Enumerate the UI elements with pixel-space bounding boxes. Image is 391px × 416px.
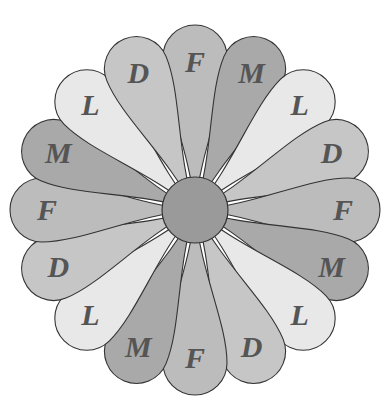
flower-center	[162, 177, 228, 243]
petal-label: D	[46, 250, 69, 283]
petal-label: M	[124, 330, 153, 363]
petal-label: F	[36, 193, 57, 226]
petal-label: L	[290, 298, 309, 331]
petal-label: M	[317, 250, 346, 283]
petal-label: M	[237, 56, 266, 89]
flower-diagram: FMLDFMLDFMLDFMLD	[0, 0, 391, 416]
petal-label: L	[80, 88, 99, 121]
petal-label: L	[290, 88, 309, 121]
petal-label: D	[240, 330, 263, 363]
petal-label: F	[184, 341, 205, 374]
petal-label: L	[80, 298, 99, 331]
petal-label: F	[332, 193, 353, 226]
petal-label: F	[184, 45, 205, 78]
petal-label: D	[320, 136, 343, 169]
petal-label: M	[44, 136, 73, 169]
petal-label: D	[127, 56, 150, 89]
